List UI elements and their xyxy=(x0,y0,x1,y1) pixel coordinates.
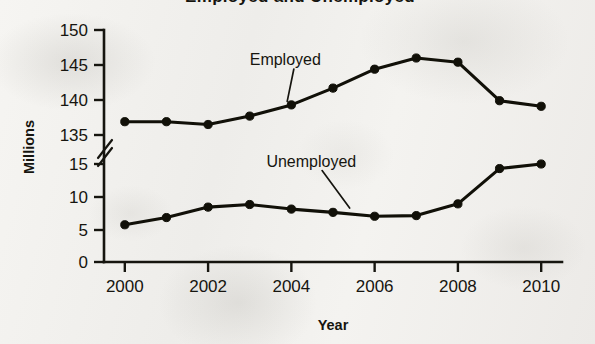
employed-point-2009 xyxy=(495,97,503,105)
employed-label: Employed xyxy=(250,51,321,68)
unemployed-annotation: Unemployed xyxy=(266,153,356,208)
employed-point-2006 xyxy=(371,65,379,73)
chart-svg: 150 145 140 135 15 10 5 0 20002002200420… xyxy=(0,0,595,344)
employment-line-chart: 150 145 140 135 15 10 5 0 20002002200420… xyxy=(0,0,595,344)
y-tick-10: 10 xyxy=(69,188,88,207)
y-tick-140: 140 xyxy=(60,91,88,110)
employed-point-2001 xyxy=(162,118,170,126)
employed-point-2005 xyxy=(329,84,337,92)
employed-leader-line xyxy=(287,69,294,101)
unemployed-leader-line xyxy=(322,171,350,208)
unemployed-point-2003 xyxy=(246,200,254,208)
unemployed-point-2006 xyxy=(371,212,379,220)
employed-point-2007 xyxy=(412,54,420,62)
unemployed-point-2007 xyxy=(412,212,420,220)
unemployed-label: Unemployed xyxy=(266,153,356,170)
employed-point-2000 xyxy=(121,118,129,126)
y-tick-5: 5 xyxy=(79,221,88,240)
y-tick-15: 15 xyxy=(69,155,88,174)
y-tick-145: 145 xyxy=(60,56,88,75)
x-tick-label-2002: 2002 xyxy=(189,277,227,296)
unemployed-point-2010 xyxy=(537,160,545,168)
series-unemployed xyxy=(121,160,546,229)
employed-point-2003 xyxy=(246,112,254,120)
x-tick-label-2006: 2006 xyxy=(356,277,394,296)
x-tick-label-2004: 2004 xyxy=(272,277,310,296)
series-employed xyxy=(121,54,546,129)
unemployed-point-2000 xyxy=(121,221,129,229)
employed-annotation: Employed xyxy=(250,51,321,101)
y-tick-0: 0 xyxy=(79,253,88,272)
unemployed-point-2008 xyxy=(454,200,462,208)
x-axis-title: Year xyxy=(318,317,349,333)
x-axis-tick-labels: 200020022004200620082010 xyxy=(106,277,560,296)
x-tick-label-2008: 2008 xyxy=(439,277,477,296)
unemployed-point-2004 xyxy=(287,205,295,213)
y-axis-ticks-upper xyxy=(94,30,104,135)
unemployed-point-2002 xyxy=(204,203,212,211)
unemployed-point-2005 xyxy=(329,208,337,216)
y-tick-150: 150 xyxy=(60,21,88,40)
employed-point-2002 xyxy=(204,120,212,128)
x-tick-label-2010: 2010 xyxy=(522,277,560,296)
y-tick-135: 135 xyxy=(60,126,88,145)
employed-point-2008 xyxy=(454,58,462,66)
y-axis-tick-labels: 150 145 140 135 15 10 5 0 xyxy=(60,21,88,272)
y-axis-title: Millions xyxy=(21,120,37,174)
y-axis-ticks-lower xyxy=(94,164,104,262)
x-tick-label-2000: 2000 xyxy=(106,277,144,296)
employed-point-2004 xyxy=(287,101,295,109)
x-axis-ticks xyxy=(125,262,541,272)
unemployed-point-2009 xyxy=(495,164,503,172)
unemployed-point-2001 xyxy=(162,213,170,221)
employed-point-2010 xyxy=(537,102,545,110)
